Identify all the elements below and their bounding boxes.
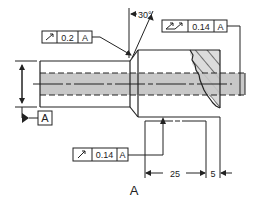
dimension-25-text: 25 — [170, 169, 180, 179]
fcf-top-right-tolerance: 0.14 — [192, 22, 210, 32]
dimension-5-text: 5 — [210, 169, 215, 179]
fcf-bottom-datum: A — [119, 150, 125, 160]
fcf-bottom: 0.14 A — [73, 148, 128, 161]
diameter-dimension — [15, 61, 37, 118]
fcf-top-right: 0.14 A — [162, 20, 227, 32]
chamfer-angle-text: 30° — [138, 10, 152, 20]
fcf-top-left-tolerance: 0.2 — [61, 33, 74, 43]
fcf-bottom-tolerance: 0.14 — [96, 150, 114, 160]
fcf-top-left: 0.2 A — [42, 31, 92, 43]
length-extension-lines — [145, 117, 220, 178]
fcf-top-right-datum: A — [217, 22, 223, 32]
datum-a-symbol: A — [22, 111, 52, 125]
technical-drawing: A 30° 0.2 A 0.14 A — [0, 0, 257, 205]
view-label: A — [130, 183, 139, 198]
datum-a-label: A — [41, 112, 49, 124]
fcf-top-left-datum: A — [82, 33, 88, 43]
